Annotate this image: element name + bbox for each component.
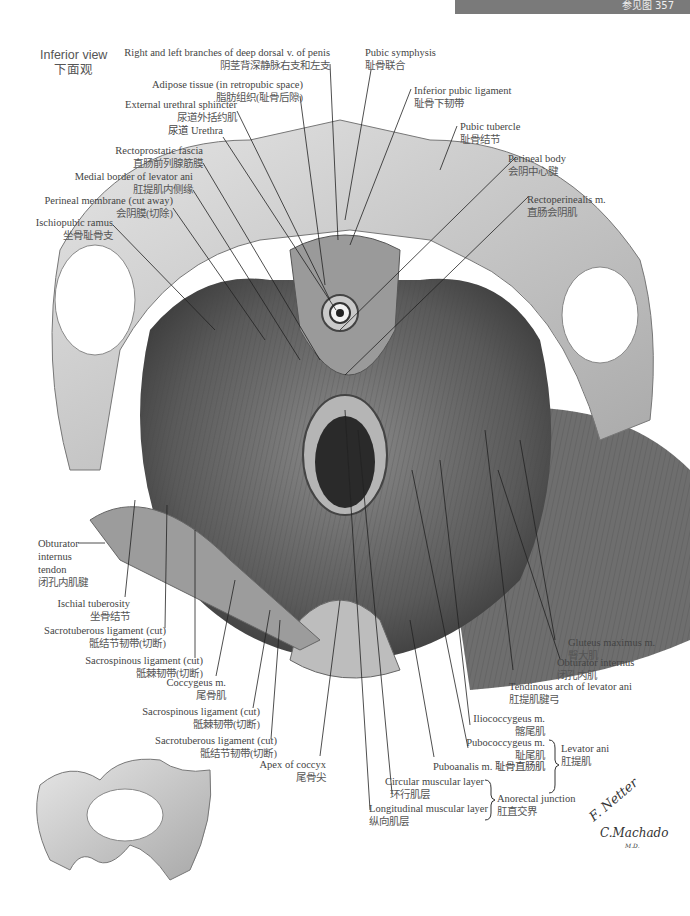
label-pubococcygeus: Pubococcygeus m.耻尾肌: [466, 736, 545, 762]
label-sacrospinous-ligament-2: Sacrospinous ligament (cut)骶棘韧带(切断): [142, 705, 260, 731]
label-obturator-internus-tendon: Obturatorinternustendon闭孔内肌腱: [38, 537, 88, 589]
signature-machado-md: M.D.: [625, 842, 640, 849]
label-puboanalis: Puboanalis m. 耻骨直肠肌: [433, 760, 545, 773]
label-ischiopubic-ramus: Ischiopubic ramus坐骨耻骨支: [36, 216, 113, 242]
label-pubic-symphysis: Pubic symphysis耻骨联合: [365, 46, 436, 72]
label-ischial-tuberosity: Ischial tuberosity坐骨结节: [57, 597, 130, 623]
label-tendinous-arch: Tendinous arch of levator ani肛提肌腱弓: [509, 680, 632, 706]
label-rectoperinealis: Rectoperinealis m.直肠会阴肌: [527, 193, 606, 219]
label-obturator-internus: Obturator internus闭孔内肌: [557, 656, 634, 682]
label-apex-of-coccyx: Apex of coccyx尾骨尖: [260, 758, 326, 784]
label-anorectal-junction: Anorectal junction肛直交界: [497, 792, 575, 818]
label-rectoprostatic-fascia: Rectoprostatic fascia直肠前列腺筋膜: [115, 144, 203, 170]
label-urethra: 尿道 Urethra: [168, 124, 223, 137]
label-inferior-pubic-ligament: Inferior pubic ligament耻骨下韧带: [414, 84, 511, 110]
label-sacrotuberous-ligament-2: Sacrotuberous ligament (cut)骶结节韧带(切断): [155, 734, 277, 760]
label-medial-border-levator-ani: Medial border of levator ani肛提肌内侧缘: [75, 170, 193, 196]
pelvic-floor-illustration: [0, 0, 690, 916]
label-levator-ani: Levator ani肛提肌: [561, 742, 609, 768]
label-coccygeus: Coccygeus m.尾骨肌: [167, 676, 227, 702]
label-perineal-body: Perineal body会阴中心腱: [508, 152, 566, 178]
pelvis-inset-illustration: [37, 759, 211, 880]
label-circular-muscular-layer: Circular muscular layer环行肌层: [385, 775, 484, 801]
label-sacrotuberous-ligament-1: Sacrotuberous ligament (cut)骶结节韧带(切断): [44, 624, 166, 650]
label-pubic-tubercle: Pubic tubercle耻骨结节: [460, 120, 520, 146]
label-longitudinal-muscular-layer: Longitudinal muscular layer纵向肌层: [369, 802, 488, 828]
signature-machado: C.Machado: [600, 826, 669, 840]
label-deep-dorsal-vein: Right and left branches of deep dorsal v…: [124, 46, 330, 72]
label-iliococcygeus: Iliococcygeus m.髂尾肌: [473, 712, 545, 738]
label-external-urethral-sphincter: External urethral sphincter尿道外括约肌: [125, 98, 237, 124]
